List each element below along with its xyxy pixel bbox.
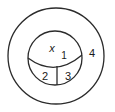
label-region-2: 2 bbox=[42, 70, 48, 82]
label-region-1: 1 bbox=[61, 50, 67, 61]
dividing-arc bbox=[28, 55, 82, 67]
label-x: x bbox=[48, 42, 55, 54]
label-region-4: 4 bbox=[89, 47, 95, 59]
region-diagram: x 1 2 3 4 bbox=[0, 0, 115, 112]
label-region-3: 3 bbox=[65, 70, 71, 82]
diagram-canvas: x 1 2 3 4 bbox=[0, 0, 115, 112]
inner-circle bbox=[28, 31, 82, 85]
